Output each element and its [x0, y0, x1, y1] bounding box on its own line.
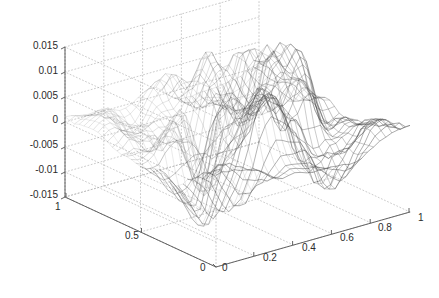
x-axis-tick-label: 0	[222, 262, 228, 273]
y-axis-tick-label: 0	[200, 262, 206, 273]
z-axis-tick-label: 0.01	[39, 65, 58, 76]
y-axis-tick-label: 0.5	[125, 230, 139, 241]
z-axis-tick-label: 0	[52, 114, 58, 125]
z-axis-tick-label: -0.01	[35, 164, 58, 175]
z-axis-tick-label: -0.005	[30, 139, 58, 150]
x-axis-tick-label: 0.2	[263, 252, 277, 263]
mesh-plot	[0, 0, 439, 298]
x-axis-tick-label: 0.4	[302, 242, 316, 253]
y-axis-tick-label: 1	[55, 201, 61, 212]
x-axis-tick-label: 0.6	[340, 232, 354, 243]
x-axis-tick-label: 1	[418, 212, 424, 223]
axis-lines	[61, 47, 410, 267]
z-axis-tick-label: 0.005	[33, 90, 58, 101]
z-axis-tick-label: 0.015	[33, 40, 58, 51]
mesh-surface	[65, 43, 410, 227]
x-axis-tick-label: 0.8	[378, 222, 392, 233]
figure-canvas: 0.0150.010.0050-0.005-0.01-0.01510.5000.…	[0, 0, 439, 298]
z-axis-tick-label: -0.015	[30, 189, 58, 200]
